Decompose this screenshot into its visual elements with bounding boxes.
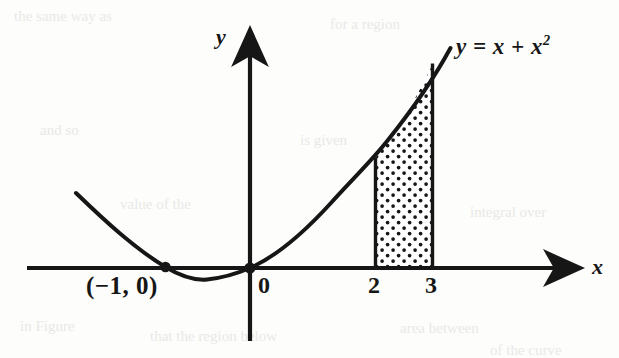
math-figure: the same way as for a region and so is g…: [0, 0, 619, 358]
x-tick-label-2: 2: [368, 272, 380, 299]
point-marker-x-intercept: [160, 262, 170, 272]
curve-equation-label: y = x + x2: [456, 32, 551, 60]
y-axis-label: y: [216, 24, 226, 50]
shaded-region: [376, 65, 433, 269]
point-marker-origin: [244, 262, 255, 273]
x-axis-label: x: [592, 254, 603, 280]
x-tick-label-3: 3: [425, 272, 437, 299]
origin-label: 0: [258, 272, 270, 299]
curve-equation-exponent: 2: [543, 32, 551, 48]
curve-equation-base: y = x + x: [456, 34, 543, 59]
x-intercept-label: (−1, 0): [86, 272, 158, 300]
